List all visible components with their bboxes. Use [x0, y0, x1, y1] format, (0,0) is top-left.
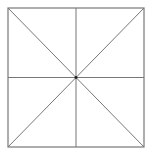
center-point — [75, 76, 78, 79]
diagram-canvas — [0, 0, 152, 155]
subdivided-square-diagram — [0, 0, 152, 155]
